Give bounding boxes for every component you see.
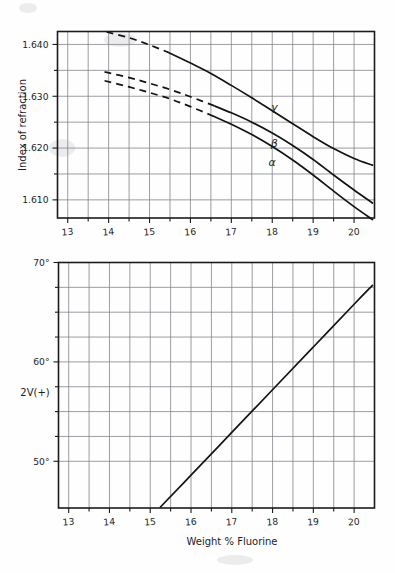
top-x-tick-labels: 1314151617181920 xyxy=(61,226,360,238)
curve-α-extrapolated xyxy=(105,81,213,116)
top-vertical-gridlines xyxy=(68,32,354,219)
bottom-y-tick-labels: 50°60°70° xyxy=(33,257,49,467)
bottom-x-tick-labels: 1314151617181920 xyxy=(62,516,360,528)
y-tick-label: 1.640 xyxy=(22,39,48,50)
y-tick-label: 1.610 xyxy=(22,194,48,205)
x-tick-label: 20 xyxy=(348,226,361,238)
optic-axial-angle-line xyxy=(160,285,372,507)
curve-label-γ: γ xyxy=(271,101,278,114)
x-tick-label: 20 xyxy=(348,516,361,528)
x-tick-label: 16 xyxy=(185,516,198,528)
bottom-plot-frame xyxy=(59,263,375,509)
top-horizontal-gridlines xyxy=(58,44,375,199)
x-tick-label: 15 xyxy=(143,226,156,238)
curve-β-measured xyxy=(215,106,372,203)
optic-axial-angle-panel: 50°60°70° 1314151617181920 2V(+) Weight … xyxy=(20,257,374,547)
x-tick-label: 14 xyxy=(103,516,116,528)
top-y-axis-title: Index of refraction xyxy=(17,79,28,171)
x-tick-label: 13 xyxy=(61,226,74,238)
x-tick-label: 14 xyxy=(102,226,115,238)
x-tick-label: 15 xyxy=(144,516,157,528)
bottom-curve xyxy=(160,285,372,507)
top-plot-frame xyxy=(58,32,375,219)
figure-page: 1.6101.6201.6301.640 1314151617181920 γβ… xyxy=(0,0,395,573)
bottom-vertical-gridlines xyxy=(69,263,354,509)
y-tick-label: 70° xyxy=(33,257,49,268)
curve-β-extrapolated xyxy=(105,72,215,106)
top-curves xyxy=(105,32,373,220)
x-tick-label: 17 xyxy=(225,226,238,238)
x-tick-label: 19 xyxy=(307,516,320,528)
x-tick-label: 16 xyxy=(184,226,197,238)
curve-label-α: α xyxy=(269,156,277,169)
scan-smudge xyxy=(19,3,37,13)
x-tick-label: 18 xyxy=(266,226,279,238)
two-panel-figure: 1.6101.6201.6301.640 1314151617181920 γβ… xyxy=(0,0,395,573)
y-tick-label: 60° xyxy=(33,356,49,367)
x-tick-label: 13 xyxy=(62,516,75,528)
bottom-axis-ticks xyxy=(54,263,355,514)
x-tick-label: 19 xyxy=(307,226,320,238)
scan-smudge xyxy=(217,555,253,565)
index-of-refraction-panel: 1.6101.6201.6301.640 1314151617181920 γβ… xyxy=(17,32,375,238)
bottom-x-axis-title: Weight % Fluorine xyxy=(186,536,277,547)
x-tick-label: 17 xyxy=(225,516,238,528)
x-tick-label: 18 xyxy=(266,516,279,528)
bottom-y-axis-title: 2V(+) xyxy=(20,387,49,398)
y-tick-label: 50° xyxy=(33,456,49,467)
curve-label-β: β xyxy=(270,137,278,150)
bottom-horizontal-gridlines xyxy=(59,263,375,462)
